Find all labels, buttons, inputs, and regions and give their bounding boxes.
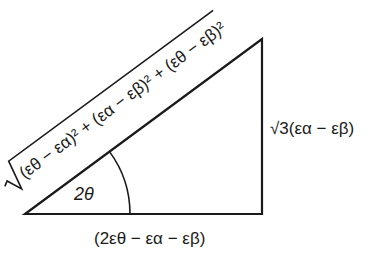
opposite-side-label: √3(εα − εβ) (270, 119, 354, 138)
angle-arc (110, 152, 131, 214)
hypotenuse-label: (εθ − εα)² + (εα − εβ)² + (εθ − εβ)² (0, 10, 231, 196)
adjacent-side-label: (2εθ − εα − εβ) (94, 229, 205, 248)
right-triangle (25, 39, 262, 214)
hypotenuse-expression: (εθ − εα)² + (εα − εβ)² + (εθ − εβ)² (16, 18, 230, 183)
strain-triangle-diagram: 2θ (εθ − εα)² + (εα − εβ)² + (εθ − εβ)² … (0, 0, 382, 265)
angle-label: 2θ (73, 184, 94, 204)
